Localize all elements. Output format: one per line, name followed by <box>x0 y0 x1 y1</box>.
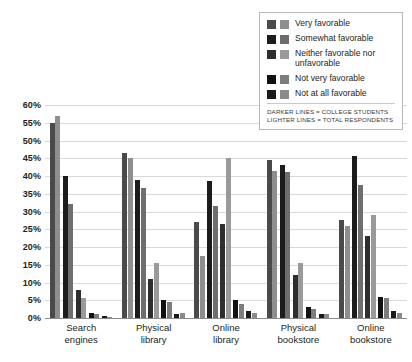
bar-group <box>190 105 262 318</box>
bar <box>154 263 159 318</box>
legend-note-line-2: LIGHTER LINES = TOTAL RESPONDENTS <box>267 116 395 124</box>
bar <box>371 215 376 318</box>
bar <box>358 185 363 318</box>
bar <box>220 224 225 318</box>
bar <box>122 153 127 318</box>
y-tick-label: 40% <box>1 171 41 181</box>
y-tick-label: 15% <box>1 260 41 270</box>
bar <box>148 279 153 318</box>
legend-note: DARKER LINES = COLLEGE STUDENTS LIGHTER … <box>267 103 395 125</box>
bar-set <box>194 105 257 318</box>
y-axis-ticks: 60%55%50%45%40%35%30%25%20%15%10%5%0% <box>0 105 41 318</box>
bar-group <box>117 105 189 318</box>
bar <box>141 188 146 318</box>
legend-item: Somewhat favorable <box>267 34 395 44</box>
bar <box>345 226 350 318</box>
bar <box>55 116 60 318</box>
bar-group <box>45 105 117 318</box>
bar <box>167 302 172 318</box>
legend-item: Very favorable <box>267 19 395 29</box>
bar <box>161 300 166 318</box>
bar-set <box>267 105 330 318</box>
bar <box>107 317 112 318</box>
bar-groups <box>45 105 407 318</box>
x-axis-label: Physicallibrary <box>117 322 189 360</box>
legend-swatch-light-icon <box>280 90 289 99</box>
bar <box>226 158 231 318</box>
y-tick-label: 50% <box>1 136 41 146</box>
legend-swatch-dark-icon <box>267 75 276 84</box>
bar <box>102 316 107 318</box>
legend-swatch-light-icon <box>280 75 289 84</box>
y-tick-label: 30% <box>1 207 41 217</box>
bar-group <box>335 105 407 318</box>
bar <box>180 313 185 318</box>
legend-swatch-dark-icon <box>267 35 276 44</box>
legend-swatch-light-icon <box>280 50 289 59</box>
legend-item: Not at all favorable <box>267 89 395 99</box>
y-tick-label: 55% <box>1 118 41 128</box>
bar-group <box>262 105 334 318</box>
y-tick-label: 5% <box>1 295 41 305</box>
legend-item-label: Very favorable <box>295 19 350 29</box>
bar <box>285 172 290 318</box>
y-tick-label: 10% <box>1 278 41 288</box>
bar-set <box>122 105 185 318</box>
bar <box>306 307 311 318</box>
bar-set <box>339 105 402 318</box>
x-axis-label: Onlinelibrary <box>190 322 262 360</box>
legend-swatch-dark-icon <box>267 50 276 59</box>
bar <box>135 180 140 318</box>
legend-item-label: Neither favorable nor unfavorable <box>295 49 395 69</box>
legend-item-label: Not very favorable <box>295 74 365 84</box>
bar <box>213 206 218 318</box>
bar <box>68 204 73 318</box>
legend-item-label: Somewhat favorable <box>295 34 373 44</box>
legend-item-label: Not at all favorable <box>295 89 367 99</box>
bar-chart: 60%55%50%45%40%35%30%25%20%15%10%5%0% Se… <box>0 0 412 362</box>
bar <box>94 314 99 318</box>
bar <box>311 309 316 318</box>
bar <box>319 314 324 318</box>
y-tick-label: 60% <box>1 100 41 110</box>
bar <box>252 313 257 318</box>
bar <box>50 123 55 318</box>
bar <box>324 314 329 318</box>
x-axis-label: Searchengines <box>45 322 117 360</box>
bar <box>280 165 285 318</box>
legend-note-line-1: DARKER LINES = COLLEGE STUDENTS <box>267 108 395 116</box>
bar <box>365 236 370 318</box>
bar <box>293 275 298 318</box>
bar <box>239 304 244 318</box>
bar <box>397 313 402 318</box>
x-axis-labels: SearchenginesPhysicallibraryOnlinelibrar… <box>45 322 407 360</box>
y-tick-label: 0% <box>1 313 41 323</box>
bar <box>339 220 344 318</box>
x-axis-label: Physicalbookstore <box>262 322 334 360</box>
y-tick-label: 35% <box>1 189 41 199</box>
legend-swatch-dark-icon <box>267 90 276 99</box>
bar <box>194 222 199 318</box>
bar <box>298 263 303 318</box>
bar <box>174 314 179 318</box>
legend-swatch-dark-icon <box>267 20 276 29</box>
bar <box>89 313 94 318</box>
bar <box>207 181 212 318</box>
legend-item: Not very favorable <box>267 74 395 84</box>
legend-item: Neither favorable nor unfavorable <box>267 49 395 69</box>
bar <box>128 158 133 318</box>
y-tick-label: 45% <box>1 153 41 163</box>
gridline-0 <box>45 318 407 319</box>
bar <box>76 290 81 318</box>
bar <box>352 156 357 318</box>
bar <box>233 300 238 318</box>
bar <box>272 171 277 318</box>
legend: Very favorableSomewhat favorableNeither … <box>259 12 403 130</box>
y-tick-label: 20% <box>1 242 41 252</box>
bar <box>200 256 205 318</box>
bar-set <box>50 105 113 318</box>
bar <box>63 176 68 318</box>
bar <box>81 298 86 318</box>
bar <box>267 160 272 318</box>
y-tick-label: 25% <box>1 224 41 234</box>
